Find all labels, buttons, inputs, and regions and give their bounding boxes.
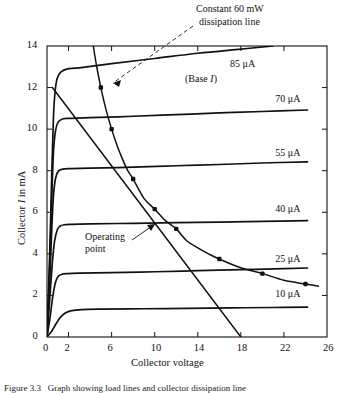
x-tick-label: 6 (108, 342, 113, 354)
curve-label-55ua: 55 μA (275, 147, 300, 159)
data-point-marker (174, 227, 178, 231)
x-tick-label: 2 (65, 342, 70, 354)
figure-root: 0261014182226 02468101214 85 μA70 μA55 μ… (0, 0, 342, 393)
dissipation-arrow-head (113, 80, 121, 87)
curve-label-10ua: 10 μA (275, 288, 300, 300)
x-tick-label: 18 (237, 342, 248, 354)
figure-caption: Figure 3.3 Graph showing load lines and … (4, 383, 340, 393)
y-tick-label: 14 (27, 39, 38, 51)
x-tick-label: 22 (280, 342, 291, 354)
y-tick-label: 8 (32, 164, 37, 176)
y-tick-label: 10 (27, 122, 38, 134)
x-tick-label: 0 (43, 342, 48, 354)
dissipation-annotation-line2: dissipation line (199, 16, 260, 28)
curve-85-ua (47, 46, 273, 337)
base-current-note: (Base I) (185, 73, 217, 85)
chart-canvas (0, 0, 342, 393)
y-tick-label: 0 (32, 330, 37, 342)
y-tick-label: 2 (32, 288, 37, 300)
operating-point-label-line2: point (85, 243, 106, 255)
x-tick-label: 26 (323, 342, 334, 354)
x-tick-label: 10 (151, 342, 162, 354)
x-tick-label: 14 (194, 342, 205, 354)
x-axis-title: Collector voltage (131, 357, 204, 369)
data-point-marker (131, 177, 135, 181)
curve-label-40ua: 40 μA (275, 203, 300, 215)
curve-25-ua (47, 268, 308, 337)
curve-label-85ua: 85 μA (230, 58, 255, 70)
y-tick-label: 4 (32, 247, 37, 259)
data-point-marker (152, 207, 156, 211)
data-point-marker (303, 282, 307, 286)
y-tick-label: 12 (27, 81, 38, 93)
operating-point-label-line1: Operating (85, 231, 125, 243)
curve-10-ua (47, 307, 308, 337)
y-axis-title: Collector I in mA (16, 171, 28, 245)
data-point-marker (99, 85, 103, 89)
y-tick-label: 6 (32, 205, 37, 217)
dissipation-annotation-line1: Constant 60 mW (196, 3, 264, 15)
operating-point-arrow-head (147, 224, 155, 231)
curve-load-line (52, 88, 240, 337)
curve-label-70ua: 70 μA (275, 93, 300, 105)
data-point-marker (109, 127, 113, 131)
curve-label-25ua: 25 μA (275, 253, 300, 265)
data-point-marker (260, 271, 264, 275)
data-point-marker (217, 257, 221, 261)
